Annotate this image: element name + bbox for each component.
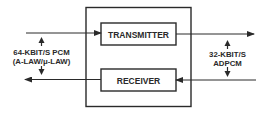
left-interface-rate-label: 64-KBIT/S PCM [13,48,69,57]
receiver-block: RECEIVER [101,69,176,91]
receiver-label: RECEIVER [117,76,160,86]
right-interface-rate-label: 32-KBIT/S [209,50,246,59]
right-interface-type-label: ADPCM [213,59,242,68]
transmitter-block: TRANSMITTER [101,23,176,45]
transmitter-label: TRANSMITTER [108,30,169,40]
left-interface-law-label: (A-LAW/μ-LAW) [13,57,71,66]
codec-block-diagram: TRANSMITTER RECEIVER 64-KBIT/S PCM (A-LA… [0,0,272,117]
